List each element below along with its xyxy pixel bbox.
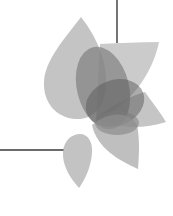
petal-bottom-icon	[63, 134, 92, 188]
petal-logo	[0, 0, 173, 216]
petal-lower-dark-icon	[95, 111, 139, 135]
